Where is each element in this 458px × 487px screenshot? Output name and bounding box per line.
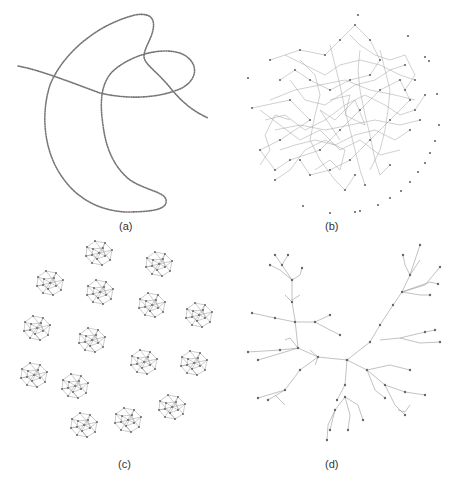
panel-label-b: (b) <box>325 220 338 232</box>
panel-label-c: (c) <box>118 458 131 470</box>
panel-c-clustered-components: (c) <box>0 240 230 487</box>
random-network-drawing <box>230 0 458 240</box>
panel-label-d: (d) <box>325 458 338 470</box>
clustered-components-drawing <box>0 240 230 487</box>
panel-a-chain-graph: (a) <box>0 0 230 240</box>
chain-graph-drawing <box>0 0 230 240</box>
panel-b-random-network: (b) <box>230 0 458 240</box>
tree-layout-drawing <box>230 240 458 487</box>
panel-d-tree-layout: (d) <box>230 240 458 487</box>
panel-label-a: (a) <box>119 220 132 232</box>
